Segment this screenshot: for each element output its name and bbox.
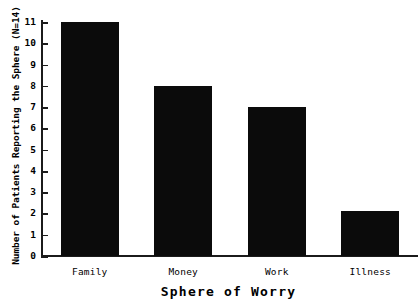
- x-category-label-money: Money: [137, 266, 231, 277]
- y-tick-label: 8: [30, 80, 36, 91]
- y-tick-label: 6: [30, 122, 36, 133]
- x-category-label-family: Family: [43, 266, 137, 277]
- y-tick-label: 9: [30, 59, 36, 70]
- y-tick-label: 4: [30, 165, 36, 176]
- y-tick-label: 5: [30, 144, 36, 155]
- y-tick-label: 3: [30, 186, 36, 197]
- y-tick-mark: [41, 256, 48, 258]
- y-tick-label: 7: [30, 101, 36, 112]
- y-tick-label: 2: [30, 207, 36, 218]
- x-category-label-work: Work: [230, 266, 324, 277]
- x-category-label-illness: Illness: [324, 266, 418, 277]
- bar-family: [61, 22, 119, 256]
- y-tick-label: 0: [30, 250, 36, 261]
- y-axis-title: Number of Patients Reporting the Sphere …: [10, 3, 21, 269]
- bar-illness: [341, 211, 399, 256]
- bar-money: [154, 86, 212, 256]
- x-axis-title: Sphere of Worry: [41, 284, 416, 299]
- y-tick-label: 1: [30, 229, 36, 240]
- y-tick-label: 10: [25, 37, 36, 48]
- y-tick-label: 11: [25, 16, 36, 27]
- bar-work: [248, 107, 306, 256]
